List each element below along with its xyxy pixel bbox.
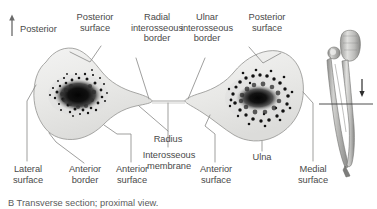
leader-radial-interosseous-border — [136, 58, 149, 99]
forearm-bones-inset — [319, 30, 373, 177]
label-lateral-surface: Lateral surface — [2, 164, 54, 185]
label-ulna: Ulna — [243, 152, 281, 163]
leader-anterior-surface-ulna — [205, 115, 215, 162]
label-medial-surface: Medial surface — [288, 164, 338, 185]
label-posterior-surface-radius: Posterior surface — [64, 12, 126, 33]
label-ulnar-interosseous-border: Ulnar interosseous border — [174, 12, 240, 44]
figure-caption: B Transverse section; proximal view. — [8, 198, 158, 208]
label-radius: Radius — [147, 134, 189, 145]
view-direction-arrow — [359, 79, 364, 97]
label-anterior-surface-ulna: Anterior surface — [188, 164, 244, 185]
inset-distal-humerus — [340, 30, 360, 61]
posterior-orientation-arrow — [9, 15, 15, 37]
anatomical-figure-cross-section-radius-ulna: Posterior Posterior surface Radial inter… — [0, 0, 377, 209]
leader-medial-surface — [303, 92, 313, 161]
leader-radius — [139, 106, 168, 131]
radius-cross-section — [34, 48, 152, 139]
label-posterior-surface-ulna: Posterior surface — [236, 12, 298, 33]
leader-anterior-surface-radius — [104, 125, 131, 162]
